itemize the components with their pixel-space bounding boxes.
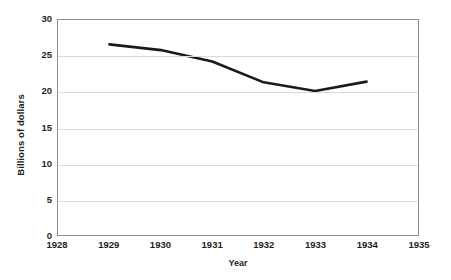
y-tick-label: 15 bbox=[30, 123, 52, 133]
y-tick-label: 5 bbox=[30, 195, 52, 205]
y-tick-label: 25 bbox=[30, 50, 52, 60]
gridline-y bbox=[58, 129, 418, 130]
data-line-series bbox=[109, 44, 366, 91]
x-tick-label: 1934 bbox=[347, 239, 387, 250]
gridline-y bbox=[58, 201, 418, 202]
gridline-y bbox=[58, 165, 418, 166]
y-tick-label: 30 bbox=[30, 14, 52, 24]
plot-area bbox=[57, 19, 419, 236]
line-chart: Billions of dollars 051015202530 1928192… bbox=[0, 0, 451, 280]
x-axis-title: Year bbox=[57, 258, 419, 269]
x-axis-tick-labels: 19281929193019311932193319341935 bbox=[0, 239, 451, 253]
gridline-y bbox=[58, 92, 418, 93]
x-tick-label: 1928 bbox=[37, 239, 77, 250]
gridline-y bbox=[58, 56, 418, 57]
x-tick-label: 1932 bbox=[244, 239, 284, 250]
y-axis-tick-labels: 051015202530 bbox=[26, 0, 52, 280]
x-tick-label: 1931 bbox=[192, 239, 232, 250]
y-tick-label: 20 bbox=[30, 86, 52, 96]
x-tick-label: 1935 bbox=[399, 239, 439, 250]
x-tick-label: 1930 bbox=[140, 239, 180, 250]
data-series-svg bbox=[58, 20, 418, 235]
x-tick-label: 1929 bbox=[89, 239, 129, 250]
x-tick-label: 1933 bbox=[296, 239, 336, 250]
y-tick-label: 10 bbox=[30, 159, 52, 169]
